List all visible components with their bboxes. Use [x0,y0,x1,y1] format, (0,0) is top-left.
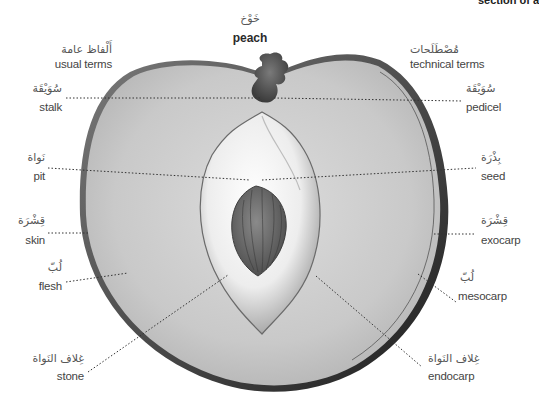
pit-label: pit [0,170,45,183]
pedicel-label: pedicel [466,101,526,114]
mesocarp-label: mesocarp [458,290,518,303]
pit-arabic: نَواة [0,151,45,164]
exocarp-label: exocarp [481,234,535,247]
stone-label: stone [0,370,84,383]
title-arabic: خَوْخ [225,12,275,25]
seed-arabic: بِذْرَة [481,151,531,164]
usual-terms-arabic: أَلْفاظ عامة [20,43,112,56]
skin-arabic: قِشْرَة [0,214,45,227]
stalk-label: stalk [0,101,62,114]
endocarp-label: endocarp [428,370,498,383]
exocarp-arabic: قِشْرَة [481,214,531,227]
flesh-label: flesh [0,280,62,293]
skin-label: skin [0,234,45,247]
pedicel-arabic: سُوَيْقَة [466,82,526,95]
endocarp-arabic: غِلاف النَواة [428,352,512,365]
mesocarp-arabic: لُبّ [460,271,510,284]
usual-terms-english: usual terms [20,58,112,71]
stalk-arabic: سُوَيْقَة [0,82,62,95]
flesh-arabic: لُبّ [0,261,62,274]
stone-arabic: غِلاف النَواة [0,352,84,365]
technical-terms-arabic: مُصْطَلَحات [410,43,500,56]
title-english: peach [220,32,280,45]
seed-label: seed [481,170,531,183]
technical-terms-english: technical terms [410,58,510,71]
